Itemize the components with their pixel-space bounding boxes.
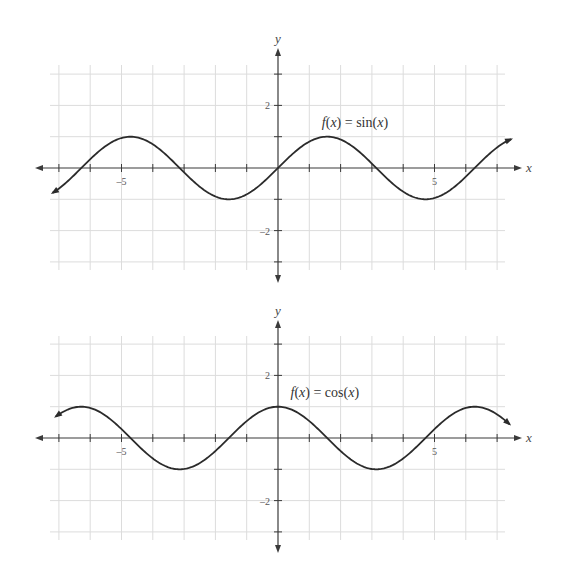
y-axis-up-arrow-icon	[275, 48, 281, 56]
y-axis-label: y	[273, 303, 281, 318]
curve-arrow-icon	[505, 139, 514, 145]
y-tick-label: 2	[265, 370, 270, 381]
x-axis-left-arrow-icon	[35, 165, 43, 171]
function-label: f(x) = sin(x)	[322, 115, 389, 131]
x-axis-right-arrow-icon	[514, 165, 522, 171]
x-tick-label: –5	[116, 176, 127, 187]
chart-canvas: f(x) = sin(x) x y –552–2 f(x) = cos(x) x…	[0, 0, 561, 580]
x-axis-left-arrow-icon	[35, 435, 43, 441]
curve-arrow-icon	[54, 411, 62, 418]
y-tick-label: –2	[259, 496, 270, 507]
axes	[35, 320, 522, 553]
x-tick-label: –5	[116, 446, 127, 457]
axes	[35, 48, 522, 283]
x-tick-label: 5	[432, 176, 437, 187]
y-tick-label: 2	[265, 100, 270, 111]
x-axis-right-arrow-icon	[514, 435, 522, 441]
y-axis-label: y	[273, 31, 281, 46]
x-tick-label: 5	[432, 446, 437, 457]
sine-chart: f(x) = sin(x) x y –552–2	[35, 31, 532, 283]
x-axis-label: x	[525, 160, 532, 175]
y-tick-label: –2	[259, 226, 270, 237]
y-axis-up-arrow-icon	[275, 320, 281, 328]
cosine-chart: f(x) = cos(x) x y –552–2	[35, 303, 532, 553]
y-axis-down-arrow-icon	[275, 275, 281, 283]
y-axis-down-arrow-icon	[275, 545, 281, 553]
function-label: f(x) = cos(x)	[291, 385, 360, 401]
x-axis-label: x	[525, 430, 532, 445]
